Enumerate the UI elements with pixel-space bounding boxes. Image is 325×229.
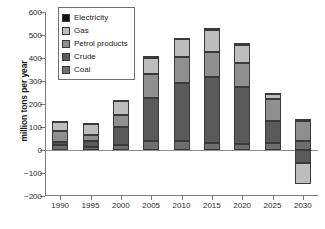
bar-segment-crude[interactable] — [204, 77, 220, 143]
bar-segment-crude[interactable] — [174, 83, 190, 142]
x-tick — [151, 196, 152, 200]
legend-swatch-icon — [62, 66, 70, 74]
y-axis-title: million tons per year — [19, 31, 29, 171]
legend-swatch-icon — [62, 53, 70, 61]
y-tick-label: 300 — [29, 77, 42, 86]
bar-segment-coal[interactable] — [234, 144, 250, 150]
legend: ElectricityGasPetrol productsCrudeCoal — [58, 7, 135, 80]
x-tick — [212, 196, 213, 200]
bar-segment-gas[interactable] — [52, 122, 68, 131]
bar-segment-electricity[interactable] — [174, 38, 190, 40]
bar-segment-gas[interactable] — [143, 58, 159, 74]
y-tick-label: 600 — [29, 8, 42, 17]
x-tick-label: 1990 — [51, 201, 69, 210]
x-tick-label: 2015 — [203, 201, 221, 210]
y-tick-label: 200 — [29, 100, 42, 109]
bar-segment-electricity[interactable] — [52, 121, 68, 123]
legend-swatch-icon — [62, 14, 70, 22]
bar-segment-coal[interactable] — [295, 141, 311, 150]
y-tick-label: 0 — [38, 146, 42, 155]
bar-stack[interactable] — [265, 12, 281, 196]
bar-segment-electricity[interactable] — [204, 28, 220, 30]
bar-segment-petrol-products[interactable] — [113, 115, 129, 127]
bar-segment-petrol-products[interactable] — [52, 131, 68, 142]
y-tick-label: 100 — [29, 123, 42, 132]
x-tick-label: 2020 — [233, 201, 251, 210]
bar-segment-crude[interactable] — [83, 141, 99, 147]
x-tick-label: 1995 — [82, 201, 100, 210]
bar-stack[interactable] — [234, 12, 250, 196]
bar-segment-gas[interactable] — [204, 30, 220, 52]
x-tick — [242, 196, 243, 200]
x-tick — [121, 196, 122, 200]
bar-segment-petrol-products[interactable] — [83, 135, 99, 141]
bar-segment-gas[interactable] — [234, 45, 250, 63]
x-tick-label: 2010 — [173, 201, 191, 210]
bar-segment-coal[interactable] — [83, 147, 99, 150]
legend-label: Coal — [74, 66, 90, 74]
x-tick — [91, 196, 92, 200]
x-tick-label: 2000 — [112, 201, 130, 210]
bar-segment-coal[interactable] — [204, 143, 220, 150]
x-tick — [303, 196, 304, 200]
bar-segment-crude[interactable] — [265, 121, 281, 143]
bar-segment-crude[interactable] — [295, 150, 311, 163]
bar-segment-coal[interactable] — [143, 141, 159, 150]
bar-segment-electricity[interactable] — [265, 93, 281, 95]
bar-segment-petrol-products[interactable] — [174, 57, 190, 82]
bar-segment-petrol-products[interactable] — [234, 63, 250, 87]
bar-segment-crude[interactable] — [234, 87, 250, 144]
bar-stack[interactable] — [295, 12, 311, 196]
bar-segment-gas[interactable] — [295, 163, 311, 185]
legend-label: Electricity — [74, 14, 108, 22]
y-axis-line — [45, 12, 46, 196]
x-tick — [273, 196, 274, 200]
x-tick-label: 2005 — [142, 201, 160, 210]
legend-item-electricity[interactable]: Electricity — [62, 11, 130, 24]
bar-segment-coal[interactable] — [52, 145, 68, 150]
legend-item-coal[interactable]: Coal — [62, 63, 130, 76]
bar-segment-gas[interactable] — [113, 101, 129, 115]
legend-label: Petrol products — [74, 40, 128, 48]
bar-segment-crude[interactable] — [113, 127, 129, 145]
bar-segment-electricity[interactable] — [234, 43, 250, 45]
x-tick-label: 2030 — [294, 201, 312, 210]
legend-item-crude[interactable]: Crude — [62, 50, 130, 63]
legend-label: Gas — [74, 27, 89, 35]
legend-swatch-icon — [62, 40, 70, 48]
bar-segment-electricity[interactable] — [295, 119, 311, 121]
legend-item-gas[interactable]: Gas — [62, 24, 130, 37]
bar-segment-electricity[interactable] — [113, 100, 129, 102]
y-tick-label: −200 — [24, 192, 42, 201]
legend-label: Crude — [74, 53, 96, 61]
bar-segment-electricity[interactable] — [83, 123, 99, 125]
bar-segment-coal[interactable] — [113, 145, 129, 150]
legend-item-petrol-products[interactable]: Petrol products — [62, 37, 130, 50]
bar-segment-petrol-products[interactable] — [295, 121, 311, 142]
y-tick-label: 400 — [29, 54, 42, 63]
bar-segment-electricity[interactable] — [143, 56, 159, 58]
bar-segment-coal[interactable] — [174, 141, 190, 150]
x-tick — [60, 196, 61, 200]
bar-segment-coal[interactable] — [265, 143, 281, 150]
bar-segment-petrol-products[interactable] — [143, 74, 159, 98]
x-tick-label: 2025 — [264, 201, 282, 210]
bar-stack[interactable] — [204, 12, 220, 196]
bar-segment-crude[interactable] — [52, 142, 68, 145]
x-tick — [182, 196, 183, 200]
legend-swatch-icon — [62, 27, 70, 35]
bar-segment-gas[interactable] — [265, 94, 281, 99]
y-tick-label: 500 — [29, 31, 42, 40]
bar-segment-petrol-products[interactable] — [265, 99, 281, 120]
y-tick-label: −100 — [24, 169, 42, 178]
chart-container: million tons per year −200−1000100200300… — [0, 0, 325, 229]
bar-segment-gas[interactable] — [174, 39, 190, 57]
bar-stack[interactable] — [143, 12, 159, 196]
bar-segment-crude[interactable] — [143, 98, 159, 142]
bar-segment-gas[interactable] — [83, 124, 99, 136]
bar-segment-petrol-products[interactable] — [204, 52, 220, 77]
bar-stack[interactable] — [174, 12, 190, 196]
